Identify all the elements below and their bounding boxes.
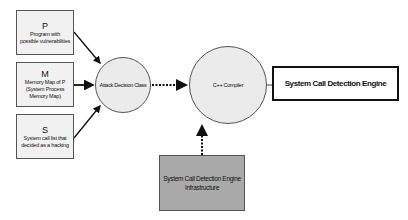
arrow-p-to-attack [74, 32, 100, 63]
infrastructure-label-line2: Infrastructure [185, 183, 219, 192]
input-box-m: M Memory Map of P (System Process Memory… [16, 62, 74, 107]
input-desc-line: System call list that [24, 135, 67, 142]
input-desc-line: (System Process [26, 86, 65, 93]
diagram-canvas: P Program with possible vulnerabilities … [0, 0, 408, 220]
input-letter: S [42, 125, 48, 135]
infrastructure-box: System Call Detection Engine Infrastruct… [159, 155, 245, 211]
input-desc-line: Memory Map) [29, 93, 61, 100]
compiler-node: C++ Compiler [189, 46, 267, 124]
input-desc-line: Program with [30, 31, 60, 38]
attack-decision-node: Attack Decision Class [95, 57, 151, 113]
input-desc-line: decided as a hacking [21, 142, 69, 149]
detection-engine-label: System Call Detection Engine [285, 79, 387, 88]
detection-engine-box: System Call Detection Engine [272, 66, 399, 101]
input-desc-line: Memory Map of P [25, 79, 65, 86]
input-letter: M [41, 69, 49, 79]
input-letter: P [42, 21, 48, 31]
input-box-p: P Program with possible vulnerabilities [16, 10, 74, 55]
arrow-s-to-attack [74, 106, 100, 138]
infrastructure-label-line1: System Call Detection Engine [163, 174, 241, 183]
compiler-label: C++ Compiler [213, 82, 243, 88]
input-box-s: S System call list that decided as a hac… [16, 114, 74, 159]
input-desc-line: possible vulnerabilities [20, 38, 70, 45]
attack-decision-label: Attack Decision Class [100, 82, 147, 88]
